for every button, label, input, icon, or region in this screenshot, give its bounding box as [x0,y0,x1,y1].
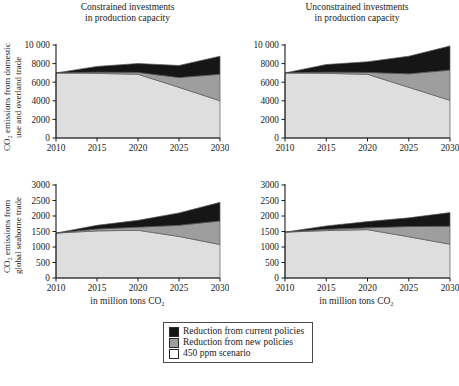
y-tick-label: 0 [45,273,50,283]
figure-root: Constrained investments in production ca… [0,0,459,386]
y-tick-label: 500 [36,258,50,268]
legend-label-current-policies: Reduction from current policies [183,326,304,337]
x-tick-label: 2025 [170,283,189,293]
x-tick-label: 2020 [129,283,148,293]
legend-item-current-policies: Reduction from current policies [169,326,304,337]
plot-area-bottom-left: 0500100015002000250030002010201520202025… [0,175,229,315]
y-tick-label: 1500 [260,227,279,237]
x-tick-label: 2025 [399,283,418,293]
y-tick-label: 4000 [260,96,279,106]
y-tick-label: 4000 [31,96,50,106]
y-tick-label: 10 000 [24,40,50,50]
panel-top-right: Unconstrained investments in production … [229,0,459,175]
y-tick-label: 2000 [31,115,50,125]
y-tick-label: 3000 [260,180,279,190]
y-tick-label: 2500 [260,196,279,206]
y-tick-label: 2000 [260,115,279,125]
plot-area-bottom-right: 0500100015002000250030002010201520202025… [229,175,459,315]
panel-bottom-right: 0500100015002000250030002010201520202025… [229,175,459,315]
x-tick-label: 2015 [317,143,336,153]
y-tick-label: 10 000 [253,40,279,50]
y-tick-label: 8000 [31,59,50,69]
x-tick-label: 2030 [211,143,229,153]
x-tick-label: 2030 [211,283,229,293]
legend-swatch-new-policies-icon [169,338,179,348]
x-tick-label: 2010 [47,283,66,293]
y-tick-label: 0 [274,273,279,283]
y-tick-label: 500 [265,258,279,268]
y-tick-label: 2000 [31,211,50,221]
x-tick-label: 2025 [170,143,189,153]
x-tick-label: 2020 [358,143,377,153]
x-tick-label: 2030 [441,283,459,293]
x-tick-label: 2010 [47,143,66,153]
plot-area-top-right: 0200040006000800010 00020102015202020252… [229,0,459,175]
panel-bottom-left: CO₂ emissions from global seaborne trade… [0,175,229,315]
y-tick-label: 2000 [260,211,279,221]
legend-item-new-policies: Reduction from new policies [169,337,304,348]
legend-label-new-policies: Reduction from new policies [183,337,293,348]
x-tick-label: 2015 [88,283,107,293]
y-tick-label: 6000 [260,78,279,88]
x-tick-label: 2010 [276,283,295,293]
x-axis-label-bottom-left: in million tons CO₂ [30,296,225,306]
legend: Reduction from current policies Reductio… [163,322,313,363]
plot-area-top-left: 0200040006000800010 00020102015202020252… [0,0,229,175]
y-tick-label: 6000 [31,78,50,88]
x-tick-label: 2030 [441,143,459,153]
x-tick-label: 2020 [358,283,377,293]
y-tick-label: 8000 [260,59,279,69]
y-tick-label: 3000 [31,180,50,190]
legend-label-450-ppm: 450 ppm scenario [183,348,251,359]
area-band-2 [285,46,450,74]
y-tick-label: 1500 [31,227,50,237]
panel-top-left: Constrained investments in production ca… [0,0,229,175]
y-tick-label: 1000 [260,242,279,252]
y-tick-label: 0 [274,133,279,143]
x-tick-label: 2015 [88,143,107,153]
y-tick-label: 1000 [31,242,50,252]
x-tick-label: 2010 [276,143,295,153]
x-tick-label: 2015 [317,283,336,293]
y-tick-label: 2500 [31,196,50,206]
legend-item-450-ppm: 450 ppm scenario [169,348,304,359]
y-tick-label: 0 [45,133,50,143]
legend-swatch-current-policies-icon [169,327,179,337]
legend-swatch-450-ppm-icon [169,349,179,359]
x-axis-label-bottom-right: in million tons CO₂ [259,296,454,306]
x-tick-label: 2020 [129,143,148,153]
x-tick-label: 2025 [399,143,418,153]
